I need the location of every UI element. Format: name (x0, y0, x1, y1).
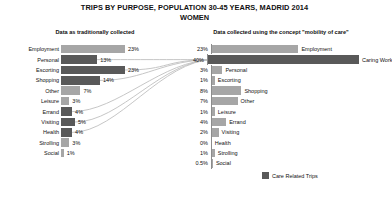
left-bar-value: 23% (125, 67, 139, 73)
right-bar (211, 86, 241, 95)
left-bar-value: 14% (100, 77, 114, 83)
legend-swatch-care-related (262, 172, 269, 179)
right-bar-label: Health (212, 140, 231, 146)
left-bar-track: 13% (61, 54, 175, 64)
left-bar (61, 66, 125, 75)
left-bar (61, 97, 69, 106)
right-axis-line (211, 65, 212, 75)
right-bar-track: Social (211, 158, 389, 168)
left-bar-label: Social (0, 150, 61, 156)
right-bar-label: Escorting (215, 77, 241, 83)
right-bar-value: 2% (193, 129, 211, 135)
left-bar-label: Employment (0, 46, 61, 52)
right-bar-row: 0.5%Social (193, 158, 389, 168)
right-bar-track: Other (211, 96, 389, 106)
right-axis-line (211, 106, 212, 116)
right-bar-row: 23%Employment (193, 44, 389, 54)
right-bar-row: 4%Errand (193, 117, 389, 127)
left-bar-value: 3% (69, 98, 80, 104)
right-bar-value: 7% (193, 98, 211, 104)
right-bar-track: Visiting (211, 127, 389, 137)
right-bar-track: Personal (211, 65, 389, 75)
right-bar (207, 55, 359, 64)
left-bar-row: Leisure3% (0, 96, 175, 106)
left-bar-track: 7% (61, 86, 175, 96)
left-bar (61, 45, 125, 54)
left-bar (61, 86, 80, 95)
right-bar-row: 3%Personal (193, 65, 389, 75)
left-bar-track: 23% (61, 44, 175, 54)
right-bar-label: Strolling (215, 150, 238, 156)
left-bar-row: Employment23% (0, 44, 175, 54)
right-bar-row: 1%Escorting (193, 75, 389, 85)
right-bar (211, 45, 298, 54)
left-bar-track: 3% (61, 96, 175, 106)
left-bar-track: 23% (61, 65, 175, 75)
right-bar-track: Leisure (211, 106, 389, 116)
left-bar-value: 1% (64, 150, 75, 156)
right-bar-value: 23% (193, 46, 211, 52)
right-bar (211, 128, 219, 137)
left-bar-label: Health (0, 129, 61, 135)
right-bar-row: 1%Leisure (193, 106, 389, 116)
left-bar-label: Strolling (0, 140, 61, 146)
right-bar-track: Shopping (211, 86, 389, 96)
right-bar-row: 1%Strolling (193, 148, 389, 158)
left-bar-row: Other7% (0, 86, 175, 96)
left-bar-label: Escorting (0, 67, 61, 73)
left-bar-value: 4% (72, 109, 83, 115)
right-bar-value: 1% (193, 150, 211, 156)
left-bar-track: 3% (61, 138, 175, 148)
left-bar-track: 4% (61, 106, 175, 116)
right-axis-line (211, 75, 212, 85)
right-axis-line (211, 158, 212, 168)
left-bar-value: 23% (125, 46, 139, 52)
right-axis-line (211, 127, 212, 137)
left-bar-value: 4% (72, 129, 83, 135)
right-bar (211, 118, 226, 127)
left-bar-track: 5% (61, 117, 175, 127)
left-bar (61, 138, 69, 147)
right-bar-value: 8% (193, 88, 211, 94)
left-bar (61, 107, 72, 116)
right-bar-label: Errand (226, 119, 246, 125)
right-bar-label: Employment (298, 46, 332, 52)
right-axis-line (211, 86, 212, 96)
page-title: TRIPS BY PURPOSE, POPULATION 30-45 YEARS… (0, 3, 389, 12)
right-axis-line (211, 96, 212, 106)
right-bar-row: 40%Caring Work (193, 54, 389, 64)
right-bar-track: Escorting (211, 75, 389, 85)
right-bar-row: 7%Other (193, 96, 389, 106)
left-bar-value: 3% (69, 140, 80, 146)
left-bar-value: 5% (75, 119, 86, 125)
left-bar (61, 128, 72, 137)
left-bar-row: Shopping14% (0, 75, 175, 85)
left-bar-row: Strolling3% (0, 138, 175, 148)
left-bar-row: Personal13% (0, 54, 175, 64)
page-subtitle: WOMEN (0, 13, 389, 22)
left-bar-track: 4% (61, 127, 175, 137)
left-bar-label: Personal (0, 57, 61, 63)
left-bar-label: Shopping (0, 77, 61, 83)
left-bar-label: Other (0, 88, 61, 94)
left-bar-label: Visiting (0, 119, 61, 125)
right-bar-label: Leisure (215, 109, 236, 115)
right-bar-label: Shopping (241, 88, 267, 94)
left-bar-value: 7% (80, 88, 91, 94)
right-bar (211, 66, 222, 75)
right-axis-line (207, 54, 208, 64)
right-panel-heading: Data collected using the concept "mobili… (190, 29, 372, 35)
right-bar-value: 1% (193, 109, 211, 115)
right-bar-label: Visiting (219, 129, 240, 135)
right-bar-track: Employment (211, 44, 389, 54)
left-bar-track: 14% (61, 75, 175, 85)
left-bar-value: 13% (97, 57, 111, 63)
left-bar-row: Visiting5% (0, 117, 175, 127)
left-bar-row: Health4% (0, 127, 175, 137)
right-bar-value: 3% (193, 67, 211, 73)
right-bar (211, 97, 238, 106)
right-bar-track: Strolling (211, 148, 389, 158)
right-bar-row: 2%Visiting (193, 127, 389, 137)
right-bar-label: Personal (222, 67, 247, 73)
